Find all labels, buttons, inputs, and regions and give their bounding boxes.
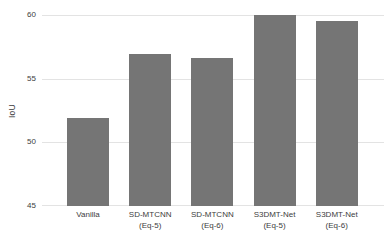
bar-1 [129, 54, 171, 206]
x-category-label-4: S3DMT-Net (Eq-6) [292, 209, 382, 231]
y-tick-label-60: 60 [0, 10, 36, 20]
bar-3 [254, 15, 296, 206]
bar-0 [67, 118, 109, 206]
bar-2 [191, 58, 233, 206]
bar-4 [316, 21, 358, 206]
bar-chart-figure: IoU 45505560 VanillaSD-MTCNN (Eq-5)SD-MT… [0, 0, 391, 240]
y-tick-label-45: 45 [0, 201, 36, 211]
gridline-60 [42, 15, 384, 16]
y-axis-label: IoU [7, 104, 17, 118]
y-tick-label-50: 50 [0, 137, 36, 147]
y-tick-label-55: 55 [0, 74, 36, 84]
plot-area [42, 15, 384, 206]
